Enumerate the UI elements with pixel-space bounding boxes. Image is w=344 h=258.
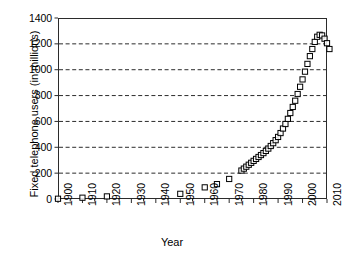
- plot-area: [58, 18, 327, 199]
- x-tick-label: 1990: [283, 183, 294, 206]
- x-tick-label: 2010: [332, 183, 343, 206]
- y-axis-title-wrap: Fixed telephone users (in millions): [9, 0, 25, 220]
- x-tick-label: 1970: [234, 183, 245, 206]
- x-tick-label: 1960: [209, 183, 220, 206]
- x-tick-label: 1910: [87, 183, 98, 206]
- x-axis-title: Year: [0, 236, 344, 248]
- data-point: [327, 46, 332, 51]
- x-tick-label: 1950: [185, 183, 196, 206]
- x-tick-label: 1940: [160, 183, 171, 206]
- chart-container: 0200400600800100012001400 19001910192019…: [0, 0, 344, 258]
- x-tick-label: 1920: [111, 183, 122, 206]
- x-tick-label: 1900: [63, 183, 74, 206]
- y-axis-title: Fixed telephone users (in millions): [28, 19, 40, 209]
- x-tick-label: 1980: [258, 183, 269, 206]
- x-tick-label: 2000: [307, 183, 318, 206]
- x-tick-label: 1930: [136, 183, 147, 206]
